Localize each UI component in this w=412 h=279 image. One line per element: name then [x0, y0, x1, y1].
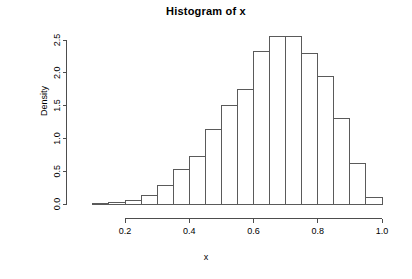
histogram-bar [205, 130, 221, 204]
x-tick-label: 0.6 [247, 226, 260, 236]
x-tick-label: 0.2 [119, 226, 132, 236]
histogram-bar [302, 53, 318, 204]
histogram-bar [318, 77, 334, 204]
histogram-bar [173, 169, 189, 204]
x-tick-label: 1.0 [376, 226, 389, 236]
y-tick-label: 2.5 [52, 34, 62, 47]
histogram-bar [109, 203, 125, 204]
y-tick-label: 0.5 [52, 165, 62, 178]
y-tick-label: 1.0 [52, 132, 62, 145]
histogram-bar [141, 195, 157, 204]
histogram-bar [221, 106, 237, 204]
x-tick-label: 0.8 [311, 226, 324, 236]
histogram-bar [334, 119, 350, 204]
x-tick-label: 0.4 [183, 226, 196, 236]
x-axis [125, 219, 382, 223]
y-axis [63, 40, 67, 204]
histogram-bar [254, 51, 270, 204]
y-tick-label: 1.5 [52, 99, 62, 112]
y-tick-label: 2.0 [52, 67, 62, 80]
histogram-plot: Histogram of x Density x 0.00.51.01.52.0… [0, 0, 412, 279]
y-tick-labels: 0.00.51.01.52.02.5 [52, 34, 62, 211]
histogram-bar [270, 36, 286, 204]
histogram-bar [350, 164, 366, 204]
histogram-bar [237, 89, 253, 204]
plot-canvas: 0.00.51.01.52.02.5 0.20.40.60.81.0 [0, 0, 412, 279]
histogram-bar [93, 203, 109, 204]
y-tick-label: 0.0 [52, 198, 62, 211]
x-tick-labels: 0.20.40.60.81.0 [119, 226, 389, 236]
histogram-bar [157, 186, 173, 204]
histogram-bar [189, 157, 205, 204]
histogram-bars [93, 36, 382, 204]
histogram-bar [286, 36, 302, 204]
histogram-bar [125, 201, 141, 204]
histogram-bar [366, 197, 382, 204]
